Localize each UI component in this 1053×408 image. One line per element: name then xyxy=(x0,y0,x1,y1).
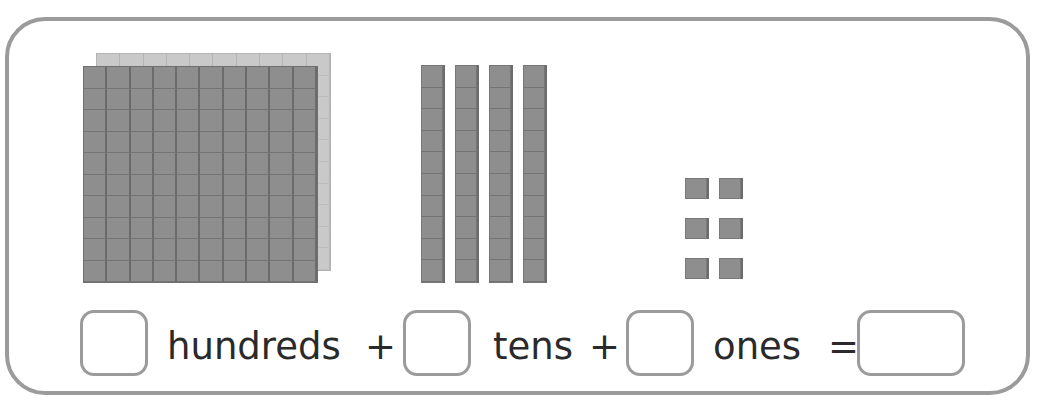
unit-cell xyxy=(107,175,130,197)
unit-cell xyxy=(456,109,476,131)
ones-label: ones xyxy=(713,328,801,365)
hundreds-answer-box[interactable] xyxy=(80,310,148,376)
unit-cell xyxy=(84,89,107,111)
unit-cell xyxy=(107,261,130,283)
unit-cell xyxy=(224,132,247,154)
unit-cell xyxy=(270,239,293,261)
unit-cell xyxy=(270,175,293,197)
one-unit xyxy=(685,258,707,279)
unit-cell xyxy=(131,239,154,261)
one-unit xyxy=(719,178,741,199)
unit-cell xyxy=(200,110,223,132)
unit-cell xyxy=(490,131,510,153)
unit-cell xyxy=(154,132,177,154)
unit-cell xyxy=(84,153,107,175)
unit-cell xyxy=(247,196,270,218)
unit-cell xyxy=(131,110,154,132)
unit-cell xyxy=(177,89,200,111)
unit-cell xyxy=(422,239,442,261)
unit-cell xyxy=(524,217,544,239)
unit-cell xyxy=(107,89,130,111)
ones-answer-box[interactable] xyxy=(626,310,694,376)
unit-cell xyxy=(224,175,247,197)
unit-cell xyxy=(490,152,510,174)
unit-cell xyxy=(270,132,293,154)
unit-cell xyxy=(84,67,107,89)
unit-cell xyxy=(490,196,510,218)
unit-cell xyxy=(490,239,510,261)
unit-cell xyxy=(294,175,317,197)
one-unit xyxy=(685,178,707,199)
unit-cell xyxy=(456,260,476,282)
tens-answer-box[interactable] xyxy=(403,310,471,376)
unit-cell xyxy=(270,67,293,89)
unit-cell xyxy=(224,196,247,218)
unit-cell xyxy=(224,153,247,175)
unit-cell xyxy=(422,66,442,88)
unit-cell xyxy=(131,218,154,240)
unit-cell xyxy=(154,153,177,175)
unit-cell xyxy=(154,196,177,218)
unit-cell xyxy=(224,218,247,240)
unit-cell xyxy=(224,67,247,89)
unit-cell xyxy=(200,89,223,111)
unit-cell xyxy=(154,218,177,240)
unit-cell xyxy=(200,175,223,197)
unit-cell xyxy=(490,260,510,282)
unit-cell xyxy=(524,152,544,174)
unit-cell xyxy=(456,66,476,88)
unit-cell xyxy=(224,261,247,283)
tens-label: tens xyxy=(493,328,573,365)
unit-cell xyxy=(200,153,223,175)
unit-cell xyxy=(177,261,200,283)
plus-sign: + xyxy=(365,328,396,365)
unit-cell xyxy=(131,153,154,175)
unit-cell xyxy=(247,175,270,197)
unit-cell xyxy=(524,109,544,131)
unit-cell xyxy=(456,174,476,196)
unit-cell xyxy=(131,196,154,218)
unit-cell xyxy=(294,110,317,132)
unit-cell xyxy=(294,153,317,175)
unit-cell xyxy=(247,239,270,261)
unit-cell xyxy=(247,132,270,154)
total-answer-box[interactable] xyxy=(857,310,965,376)
unit-cell xyxy=(490,88,510,110)
unit-cell xyxy=(107,67,130,89)
unit-cell xyxy=(422,88,442,110)
unit-cell xyxy=(131,89,154,111)
hundred-flat-front xyxy=(83,66,318,283)
unit-cell xyxy=(84,261,107,283)
unit-cell xyxy=(154,261,177,283)
unit-cell xyxy=(294,132,317,154)
unit-cell xyxy=(247,153,270,175)
unit-cell xyxy=(131,67,154,89)
unit-cell xyxy=(270,153,293,175)
unit-cell xyxy=(294,67,317,89)
unit-cell xyxy=(200,67,223,89)
unit-cell xyxy=(490,217,510,239)
ten-rod xyxy=(523,65,545,283)
unit-cell xyxy=(107,239,130,261)
ten-rod xyxy=(455,65,477,283)
unit-cell xyxy=(524,88,544,110)
plus-sign: + xyxy=(589,328,620,365)
unit-cell xyxy=(200,239,223,261)
unit-cell xyxy=(456,131,476,153)
unit-cell xyxy=(247,218,270,240)
unit-cell xyxy=(177,196,200,218)
unit-cell xyxy=(456,152,476,174)
unit-cell xyxy=(422,260,442,282)
one-unit xyxy=(685,218,707,239)
unit-cell xyxy=(524,239,544,261)
unit-cell xyxy=(224,239,247,261)
unit-cell xyxy=(131,261,154,283)
unit-cell xyxy=(270,196,293,218)
unit-cell xyxy=(490,174,510,196)
unit-cell xyxy=(490,109,510,131)
unit-cell xyxy=(177,67,200,89)
unit-cell xyxy=(456,196,476,218)
unit-cell xyxy=(84,132,107,154)
unit-cell xyxy=(107,132,130,154)
unit-cell xyxy=(177,175,200,197)
